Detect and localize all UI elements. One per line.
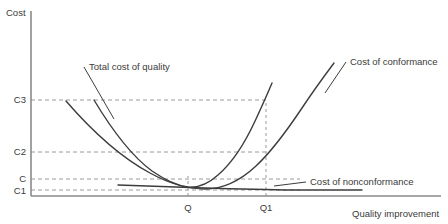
leader-cost-of-nonconformance [274,182,306,186]
annotation-total-cost-of-quality: Total cost of quality [89,62,170,72]
y-tick-label-c: C [2,174,26,184]
annotation-cost-of-nonconformance: Cost of nonconformance [310,177,414,187]
x-tick-label-q1: Q1 [254,203,278,213]
y-tick-label-c3: C3 [2,95,26,105]
y-tick-label-c2: C2 [2,147,26,157]
annotation-leaders [84,62,346,186]
y-tick-label-c1: C1 [2,186,26,196]
series-curves [66,63,362,190]
cost-of-quality-chart: Cost Quality improvement C3 C2 C C1 Q Q1… [0,0,448,224]
annotation-cost-of-conformance: Cost of conformance [350,57,438,67]
curve-cost-of-conformance [66,63,334,189]
curve-total-cost-of-quality [94,83,272,187]
leader-total-cost-of-quality [84,67,114,119]
x-tick-label-q: Q [176,203,200,213]
leader-cost-of-conformance [325,62,346,93]
axes [31,11,441,196]
reference-lines [31,100,300,196]
x-axis-title: Quality improvement [352,209,439,219]
chart-canvas [0,0,448,224]
y-axis-title: Cost [6,8,26,18]
